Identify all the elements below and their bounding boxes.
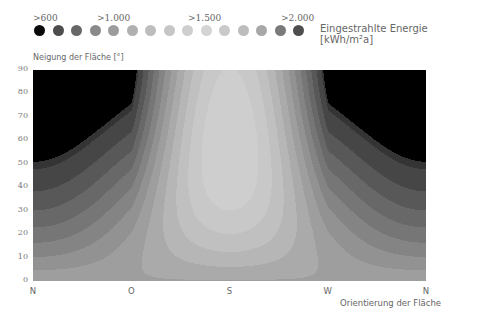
legend-title: Eingestrahlte Energie [kWh/m²a] bbox=[320, 23, 482, 45]
legend-swatch bbox=[256, 25, 267, 36]
x-tick-label: W bbox=[324, 286, 332, 296]
x-tick-label: S bbox=[227, 286, 232, 296]
legend-swatch bbox=[71, 25, 82, 36]
x-tick-label: O bbox=[128, 286, 135, 296]
legend-tick-label: >600 bbox=[33, 13, 58, 23]
legend-swatch bbox=[164, 25, 175, 36]
legend-swatch bbox=[34, 25, 45, 36]
legend-swatch bbox=[127, 25, 138, 36]
legend-swatch bbox=[238, 25, 249, 36]
y-tick-label: 50 bbox=[16, 158, 28, 167]
y-tick-label: 90 bbox=[16, 64, 28, 73]
y-axis-label: Neigung der Fläche [°] bbox=[33, 53, 124, 62]
legend-swatch bbox=[90, 25, 101, 36]
y-tick-label: 80 bbox=[16, 87, 28, 96]
legend-swatch bbox=[293, 25, 304, 36]
legend-swatch bbox=[108, 25, 119, 36]
legend-swatch bbox=[219, 25, 230, 36]
contour-heatmap bbox=[33, 70, 426, 281]
legend-tick-label: >2.000 bbox=[281, 13, 314, 23]
x-tick-label: N bbox=[30, 286, 36, 296]
y-tick-label: 20 bbox=[16, 228, 28, 237]
legend-swatch bbox=[53, 25, 64, 36]
x-axis-label: Orientierung der Fläche bbox=[340, 298, 441, 308]
legend-swatch bbox=[275, 25, 286, 36]
x-tick-label: N bbox=[423, 286, 429, 296]
y-tick-label: 60 bbox=[16, 134, 28, 143]
legend-swatch bbox=[145, 25, 156, 36]
y-tick-label: 30 bbox=[16, 205, 28, 214]
legend-swatch bbox=[182, 25, 193, 36]
legend-tick-label: >1.500 bbox=[188, 13, 221, 23]
y-tick-label: 10 bbox=[16, 252, 28, 261]
y-tick-label: 70 bbox=[16, 111, 28, 120]
legend-tick-label: >1.000 bbox=[97, 13, 130, 23]
legend-swatch bbox=[201, 25, 212, 36]
y-tick-label: 0 bbox=[16, 275, 28, 284]
y-tick-label: 40 bbox=[16, 181, 28, 190]
